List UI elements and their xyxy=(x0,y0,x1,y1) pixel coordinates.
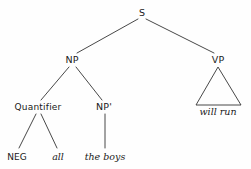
s-to-np xyxy=(77,19,138,53)
node-quantifier: Quantifier xyxy=(15,103,62,112)
tree-edges-layer xyxy=(0,0,251,169)
node-np-bar: NP' xyxy=(96,102,112,112)
s-to-vp xyxy=(146,19,214,53)
syntax-tree-figure: S NP VP Quantifier NP' NEG all the boys … xyxy=(0,0,251,169)
terminal-all: all xyxy=(52,152,64,162)
node-vp: VP xyxy=(212,55,225,65)
quantifier-to-all xyxy=(41,114,57,148)
np-to-quantifier xyxy=(41,67,69,100)
quantifier-to-neg xyxy=(19,114,36,148)
edge-group xyxy=(19,19,214,148)
triangle-group xyxy=(196,67,241,105)
node-np: NP xyxy=(65,55,78,65)
terminal-neg: NEG xyxy=(7,153,26,162)
vp-triangle xyxy=(196,67,241,105)
np-to-npbar xyxy=(76,67,102,100)
node-s: S xyxy=(139,8,145,18)
terminal-the-boys: the boys xyxy=(85,152,126,162)
terminal-will-run: will run xyxy=(199,107,236,117)
